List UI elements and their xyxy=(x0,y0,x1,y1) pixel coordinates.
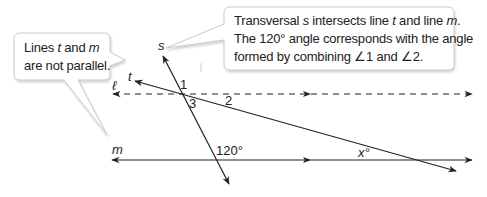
angle-2-label: 2 xyxy=(225,93,232,108)
text-segment: Lines xyxy=(24,40,58,55)
callout-right-line3: formed by combining ∠1 and ∠2. xyxy=(234,48,473,66)
callout-left-text: Lines t and m are not parallel. xyxy=(24,39,110,75)
angle-120-label: 120° xyxy=(216,143,243,158)
angle-1-label: 1 xyxy=(180,77,187,92)
angle-3-label: 3 xyxy=(189,96,196,111)
callout-left-line1: Lines t and m xyxy=(24,39,110,57)
callout-right-line1: Transversal s intersects line t and line… xyxy=(234,12,473,30)
text-segment: intersects line xyxy=(309,13,392,28)
angle-x-label: x° xyxy=(357,145,370,160)
callout-right-text: Transversal s intersects line t and line… xyxy=(234,12,473,66)
label-s: s xyxy=(158,38,165,53)
label-l: ℓ xyxy=(112,78,117,93)
line-s xyxy=(163,56,229,184)
text-segment: and xyxy=(61,40,89,55)
text-segment: Transversal xyxy=(234,13,303,28)
diagram-stage: s t ℓ m 1 2 3 120° x° Lines t and m are … xyxy=(0,0,487,197)
text-segment-italic: m xyxy=(89,40,100,55)
label-t: t xyxy=(128,69,133,84)
callout-right-line2: The 120° angle corresponds with the angl… xyxy=(234,30,473,48)
line-l xyxy=(113,91,472,97)
callout-left-line2: are not parallel. xyxy=(24,57,110,75)
text-segment-italic: m xyxy=(446,13,457,28)
label-m: m xyxy=(112,142,123,157)
text-segment: and line xyxy=(396,13,447,28)
text-segment: . xyxy=(457,13,460,28)
